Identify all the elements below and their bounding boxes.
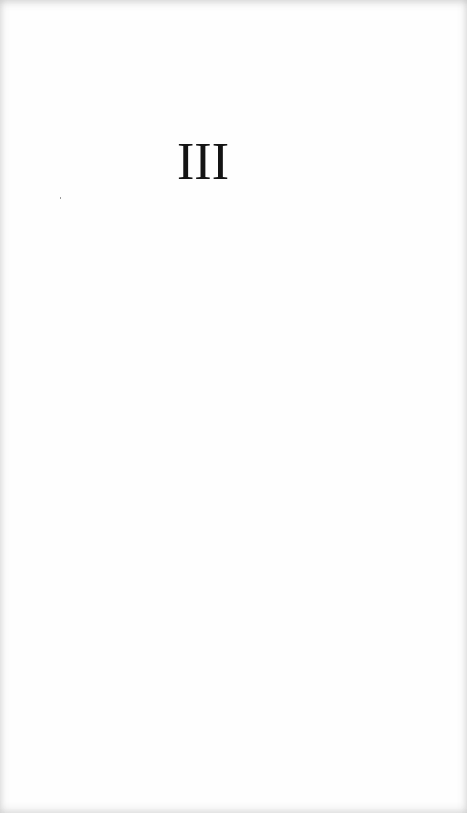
scan-speck — [60, 197, 61, 199]
document-page: III — [0, 0, 467, 813]
section-numeral-heading: III — [177, 132, 229, 192]
